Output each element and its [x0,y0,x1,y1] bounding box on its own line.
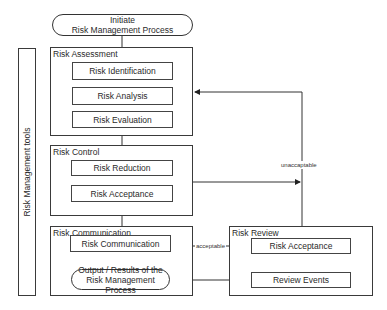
control-risk-acceptance-step: Risk Acceptance [71,185,173,202]
risk-management-tools-bar: Risk Management tools [18,48,36,296]
risk-analysis-step: Risk Analysis [72,87,173,105]
output-line1: Output / Results of the [78,265,163,275]
risk-communication-step: Risk Communication [70,235,171,252]
tools-bar-label: Risk Management tools [22,128,32,217]
risk-assessment-title: Risk Assessment [53,49,118,59]
risk-review-title: Risk Review [232,228,279,238]
initiate-line1: Initiate [110,15,135,25]
unacceptable-label: unaccaptable [280,161,318,169]
risk-control-group: Risk Control [50,145,193,216]
risk-identification-step: Risk Identification [72,62,173,80]
risk-reduction-step: Risk Reduction [71,160,173,176]
output-line2: Risk Management Process [72,275,169,295]
initiate-line2: Risk Management Process [72,25,174,35]
initiate-process-terminal: Initiate Risk Management Process [52,14,193,36]
review-events-step: Review Events [251,272,351,288]
risk-evaluation-step: Risk Evaluation [72,111,173,128]
output-results-terminal: Output / Results of the Risk Management … [71,269,170,290]
risk-control-title: Risk Control [53,147,99,157]
acceptable-label: acceptable [195,242,226,250]
review-risk-acceptance-step: Risk Acceptance [251,238,351,254]
